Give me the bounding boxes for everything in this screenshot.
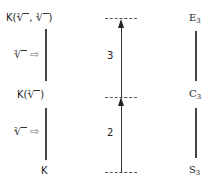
field-label-top: K(2√, 3√) bbox=[6, 12, 52, 25]
dashed-level-bottom bbox=[105, 172, 137, 173]
upper-degree-label: 3 bbox=[107, 50, 113, 62]
label-prefix: K( bbox=[6, 12, 16, 23]
group-subscript: 3 bbox=[196, 169, 200, 177]
left-upper-line bbox=[45, 29, 47, 81]
field-label-bottom: K bbox=[41, 165, 48, 177]
lower-degree-label: 2 bbox=[107, 127, 113, 139]
radical-symbol: 2√ bbox=[14, 126, 27, 139]
upper-step-annotation: 3√ ⇨ bbox=[14, 49, 39, 62]
group-label-bottom: S3 bbox=[189, 164, 200, 177]
group-subscript: 3 bbox=[197, 93, 201, 101]
radical-index: 2 bbox=[27, 89, 31, 95]
label-suffix: ) bbox=[40, 89, 44, 100]
right-upper-line bbox=[195, 31, 197, 81]
radical-symbol: 3√ bbox=[36, 12, 49, 25]
lower-degree-arrow-shaft bbox=[121, 105, 122, 172]
group-subscript: 3 bbox=[196, 17, 200, 25]
group-base: C bbox=[189, 88, 197, 99]
upper-degree-arrow-shaft bbox=[121, 26, 122, 97]
right-lower-line bbox=[195, 108, 197, 158]
arrow-up-icon bbox=[118, 19, 124, 28]
radical-index: 3 bbox=[14, 49, 18, 55]
label-prefix: K( bbox=[17, 89, 27, 100]
radical-symbol: 3√ bbox=[14, 49, 27, 62]
left-lower-line bbox=[45, 108, 47, 160]
field-label-middle: K(2√) bbox=[17, 89, 44, 102]
label-suffix: ) bbox=[49, 12, 53, 23]
radical-index: 3 bbox=[36, 12, 40, 18]
hollow-right-arrow-icon: ⇨ bbox=[30, 48, 39, 61]
hollow-right-arrow-icon: ⇨ bbox=[30, 125, 39, 138]
arrow-up-icon bbox=[118, 97, 124, 106]
group-base: S bbox=[189, 164, 196, 175]
radical-symbol: 2√ bbox=[16, 12, 29, 25]
group-label-middle: C3 bbox=[189, 88, 201, 101]
radical-index: 2 bbox=[14, 126, 18, 132]
radical-index: 2 bbox=[16, 12, 20, 18]
lower-step-annotation: 2√ ⇨ bbox=[14, 126, 39, 139]
radical-symbol: 2√ bbox=[27, 89, 40, 102]
group-label-top: E3 bbox=[189, 12, 201, 25]
